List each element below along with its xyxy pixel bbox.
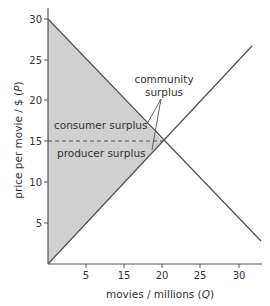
community-surplus-label-line1: community	[134, 73, 193, 85]
x-tick-label: 30	[233, 270, 246, 281]
y-tick-label: 10	[29, 177, 42, 188]
community-surplus-label-line2: surplus	[145, 86, 183, 98]
y-tick-label: 5	[36, 218, 42, 229]
x-tick-label: 15	[118, 270, 131, 281]
y-tick-label: 30	[29, 14, 42, 25]
y-tick-labels: 30 25 20 15 10 5	[29, 14, 42, 229]
producer-surplus-label: producer surplus	[57, 147, 146, 159]
x-tick-label: 25	[194, 270, 207, 281]
y-tick-label: 20	[29, 95, 42, 106]
y-tick-label: 15	[29, 136, 42, 147]
y-axis-label: price per movie / $ (P)	[12, 81, 24, 198]
x-axis-label: movies / millions (Q)	[106, 288, 214, 300]
x-tick-labels: 5 15 20 25 30	[83, 270, 246, 281]
x-tick-label: 5	[83, 270, 89, 281]
x-tick-label: 20	[156, 270, 169, 281]
supply-demand-chart: 30 25 20 15 10 5 5 15 20 25 30 consum	[0, 0, 270, 306]
y-tick-label: 25	[29, 55, 42, 66]
chart-svg: 30 25 20 15 10 5 5 15 20 25 30 consum	[0, 0, 270, 306]
consumer-surplus-label: consumer surplus	[54, 119, 147, 131]
